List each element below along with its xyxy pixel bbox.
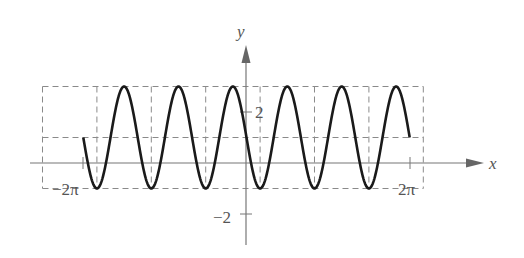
dashed-guide-grid (43, 87, 424, 189)
y-tick-label-neg-2: −2 (213, 208, 231, 227)
x-tick-label-2pi: 2π (398, 180, 416, 199)
x-axis-label: x (488, 154, 497, 173)
function-graph: x y −2π 2π 2 −2 (0, 0, 524, 258)
y-axis-label: y (235, 22, 245, 41)
x-tick-label-neg-2pi: −2π (52, 180, 79, 199)
y-tick-label-2: 2 (255, 103, 264, 122)
x-axis-arrow-icon (466, 159, 484, 168)
y-axis-arrow-icon (242, 45, 251, 63)
